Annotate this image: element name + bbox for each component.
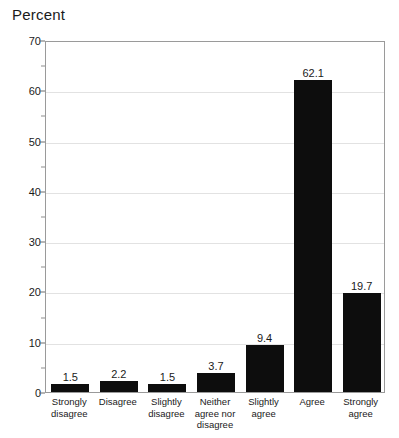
category-label: Agree bbox=[288, 396, 337, 408]
category-label: Slightlyagree bbox=[239, 396, 288, 419]
category-label-line: Neither bbox=[191, 396, 240, 408]
bar[interactable] bbox=[294, 80, 332, 392]
bar[interactable] bbox=[148, 384, 186, 392]
bar-value-label: 2.2 bbox=[95, 368, 144, 380]
category-label-line: disagree bbox=[191, 419, 240, 431]
bar-value-label: 1.5 bbox=[46, 371, 95, 383]
bar-value-label: 3.7 bbox=[192, 360, 241, 372]
category-label-line: agree bbox=[239, 408, 288, 420]
category-label-line: Slightly bbox=[239, 396, 288, 408]
category-label-line: disagree bbox=[142, 408, 191, 420]
category-label-line: agree bbox=[336, 408, 385, 420]
bar-value-label: 9.4 bbox=[240, 332, 289, 344]
bar-value-label: 1.5 bbox=[143, 371, 192, 383]
category-label: Slightlydisagree bbox=[142, 396, 191, 419]
x-axis-category-labels: StronglydisagreeDisagreeSlightlydisagree… bbox=[45, 396, 385, 438]
category-label-line: Strongly bbox=[45, 396, 94, 408]
bars-layer: 1.52.21.53.79.462.119.7 bbox=[46, 42, 384, 392]
category-label: Disagree bbox=[94, 396, 143, 408]
category-label: Stronglyagree bbox=[336, 396, 385, 419]
y-axis-ticks bbox=[0, 0, 45, 438]
category-label-line: agree nor bbox=[191, 408, 240, 420]
bar[interactable] bbox=[100, 381, 138, 392]
bar-value-label: 62.1 bbox=[289, 67, 338, 79]
category-label-line: Strongly bbox=[336, 396, 385, 408]
category-label-line: Slightly bbox=[142, 396, 191, 408]
category-label: Neitheragree nordisagree bbox=[191, 396, 240, 431]
category-label-line: Agree bbox=[288, 396, 337, 408]
bar[interactable] bbox=[197, 373, 235, 392]
bar-chart: Percent 010203040506070 1.52.21.53.79.46… bbox=[0, 0, 399, 438]
plot-area: 1.52.21.53.79.462.119.7 bbox=[45, 41, 385, 393]
category-label: Stronglydisagree bbox=[45, 396, 94, 419]
category-label-line: disagree bbox=[45, 408, 94, 420]
bar[interactable] bbox=[343, 293, 381, 392]
bar-value-label: 19.7 bbox=[337, 280, 386, 292]
category-label-line: Disagree bbox=[94, 396, 143, 408]
bar[interactable] bbox=[51, 384, 89, 392]
bar[interactable] bbox=[246, 345, 284, 392]
